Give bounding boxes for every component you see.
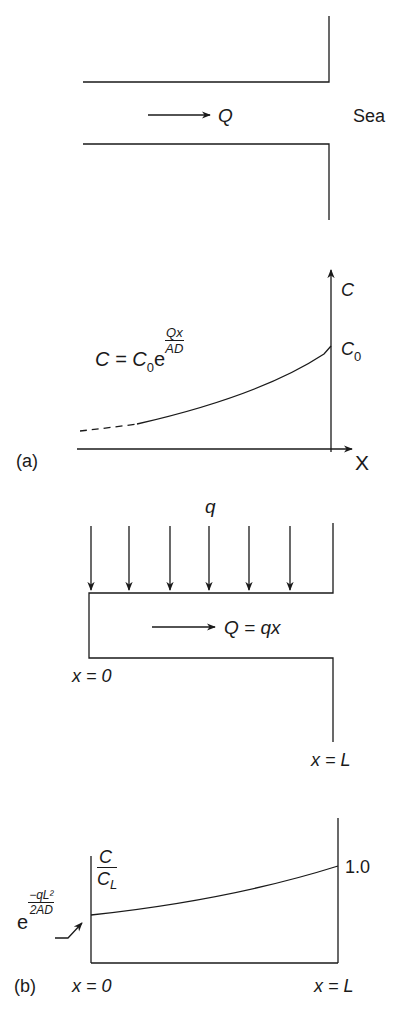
equation-subscript: 0 xyxy=(147,360,154,375)
concentration-curve xyxy=(137,346,331,424)
subscript: 0 xyxy=(354,349,361,364)
concentration-graph-b xyxy=(55,818,338,963)
inflow-arrows xyxy=(91,526,290,590)
end-position-label: x = L xyxy=(311,751,351,769)
channel-upper-wall xyxy=(89,523,333,742)
exponent-numerator: −qL² xyxy=(28,889,54,903)
panel-label-a: (a) xyxy=(16,452,38,470)
equation-base: e xyxy=(154,348,165,370)
left-value-expression: e−qL²2AD xyxy=(17,889,54,916)
concentration-curve-dashed xyxy=(80,424,137,431)
equation-lhs: C = C xyxy=(95,348,147,370)
x-axis-label: X xyxy=(355,452,369,473)
ratio-denominator: CL xyxy=(97,868,117,888)
concentration-equation: C = C0eQxAD xyxy=(95,326,184,355)
c-symbol: C xyxy=(97,869,110,889)
exponent-numerator: Qx xyxy=(165,326,184,341)
channel-lower-wall xyxy=(83,144,329,220)
c-axis-label: C xyxy=(341,281,354,299)
ratio-numerator: C xyxy=(97,848,117,868)
x-end-label: x = L xyxy=(314,977,354,995)
concentration-curve xyxy=(91,866,338,915)
channel-upper-wall xyxy=(83,16,329,82)
expression-exponent: −qL²2AD xyxy=(28,889,54,916)
estuary-channel-b xyxy=(89,523,333,742)
diagram-canvas xyxy=(0,0,401,1012)
c-symbol: C xyxy=(341,339,354,359)
inflow-label-q: q xyxy=(205,497,216,516)
equation-exponent: QxAD xyxy=(165,326,184,355)
x-start-label: x = 0 xyxy=(72,977,112,995)
flow-label-q: Q xyxy=(218,106,233,125)
pointer-arrow-icon xyxy=(55,923,82,938)
exponent-denominator: AD xyxy=(165,341,184,355)
sea-label: Sea xyxy=(353,107,385,125)
boundary-value-label: C0 xyxy=(341,340,361,358)
exponent-denominator: 2AD xyxy=(28,903,54,916)
right-value-label: 1.0 xyxy=(345,858,370,876)
flow-label-q-equals-qx: Q = qx xyxy=(224,618,281,637)
subscript: L xyxy=(110,877,117,892)
panel-label-b: (b) xyxy=(14,977,36,995)
start-position-label: x = 0 xyxy=(72,667,112,685)
normalized-concentration-label: C CL xyxy=(97,848,117,888)
expression-base: e xyxy=(17,911,28,933)
estuary-channel-a xyxy=(83,16,329,220)
